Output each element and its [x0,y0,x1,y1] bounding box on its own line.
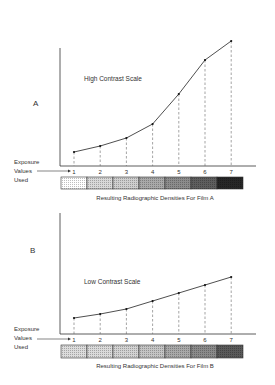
data-point [178,292,180,294]
panel-b-strip-caption: Resulting Radiographic Densities For Fil… [96,363,214,369]
tick-label: 6 [203,337,207,343]
tick-label: 2 [99,337,103,343]
density-texture [165,345,191,358]
tick-label: 3 [125,169,129,175]
tick-label: 4 [151,169,155,175]
data-point [99,313,101,315]
panel-a-letter: A [33,99,39,108]
panel-b-density-strip [61,345,243,358]
panel-a-tick-labels: 1234567 [72,169,233,175]
tick-label: 5 [177,169,181,175]
data-point [152,300,154,302]
density-texture [217,345,243,358]
svg-text:Used: Used [14,177,28,183]
panel-a: A High Contrast Scale 1234567 Exposure V… [14,40,256,201]
panel-a-drop-lines [74,41,231,166]
density-texture [61,345,87,358]
density-texture [61,177,87,189]
density-texture [191,177,217,189]
data-point [152,123,154,125]
density-texture [191,345,217,358]
tick-label: 5 [177,337,181,343]
density-texture [139,177,165,189]
panel-a-strip-caption: Resulting Radiographic Densities For Fil… [96,195,213,201]
panel-a-density-strip [61,177,243,189]
panel-b-letter: B [30,246,35,255]
density-texture [87,177,113,189]
svg-text:Values: Values [14,335,32,341]
data-point [178,93,180,95]
density-texture [165,177,191,189]
tick-label: 7 [230,169,234,175]
arrow-head-icon [68,170,71,173]
data-point [230,40,232,42]
svg-text:Values: Values [14,168,32,174]
svg-text:Used: Used [14,344,28,350]
tick-label: 4 [151,337,155,343]
tick-label: 1 [72,169,76,175]
data-point [125,308,127,310]
tick-label: 7 [230,337,234,343]
density-texture [113,177,139,189]
panel-a-curve-label: High Contrast Scale [84,75,142,83]
arrow-head-icon [68,338,71,341]
svg-text:Exposure: Exposure [14,326,40,332]
data-point [125,137,127,139]
tick-label: 1 [72,337,76,343]
panel-b-tick-labels: 1234567 [72,337,233,343]
data-point [73,317,75,319]
panel-b-drop-lines [74,277,231,334]
data-point [73,151,75,153]
density-texture [87,345,113,358]
data-point [204,59,206,61]
panel-a-points [73,40,232,153]
data-point [230,276,232,278]
panel-b-curve-label: Low Contrast Scale [84,278,141,285]
data-point [204,284,206,286]
tick-label: 2 [99,169,103,175]
contrast-scale-diagram: A High Contrast Scale 1234567 Exposure V… [0,0,275,385]
panel-b: B Low Contrast Scale 1234567 Exposure Va… [14,213,256,369]
data-point [99,145,101,147]
density-texture [139,345,165,358]
svg-text:Exposure: Exposure [14,159,40,165]
density-texture [217,177,243,189]
tick-label: 6 [203,169,207,175]
tick-label: 3 [125,337,129,343]
density-texture [113,345,139,358]
